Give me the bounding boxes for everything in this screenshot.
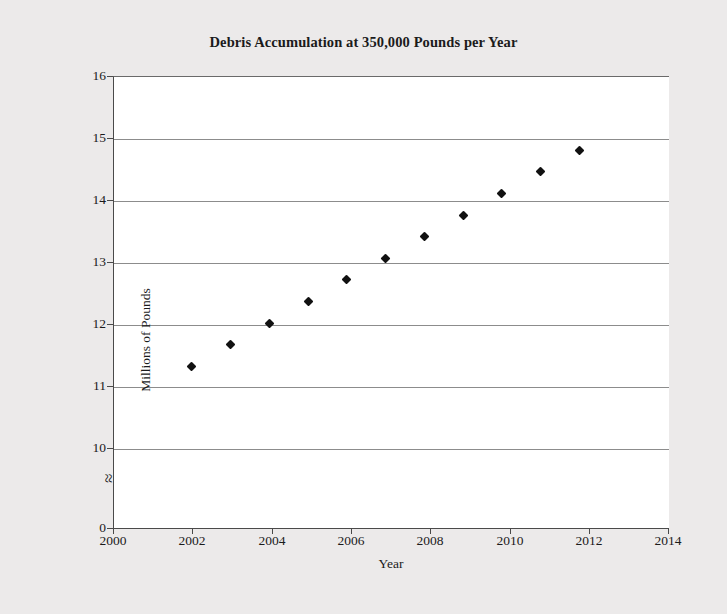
data-point bbox=[341, 274, 351, 284]
gridline-10 bbox=[114, 449, 669, 450]
x-tick-label-2010: 2010 bbox=[480, 533, 540, 549]
data-point bbox=[380, 253, 390, 263]
y-tick-mark-12 bbox=[107, 324, 113, 325]
y-tick-label-12: 12 bbox=[66, 317, 106, 331]
y-tick-mark-10 bbox=[107, 448, 113, 449]
y-axis-ticks bbox=[113, 0, 114, 614]
y-tick-label-11: 11 bbox=[66, 379, 106, 393]
y-tick-label-13: 13 bbox=[66, 255, 106, 269]
y-tick-label-10: 10 bbox=[66, 441, 106, 455]
x-tick-label-2000: 2000 bbox=[83, 533, 143, 549]
gridline-12 bbox=[114, 325, 669, 326]
data-point bbox=[535, 166, 545, 176]
data-point bbox=[186, 361, 196, 371]
gridline-11 bbox=[114, 387, 669, 388]
x-tick-label-2002: 2002 bbox=[162, 533, 222, 549]
x-tick-label-2004: 2004 bbox=[242, 533, 302, 549]
y-tick-mark-16 bbox=[107, 76, 113, 77]
y-tick-label-14: 14 bbox=[66, 193, 106, 207]
y-tick-label-16: 16 bbox=[66, 69, 106, 83]
gridline-14 bbox=[114, 201, 669, 202]
y-tick-mark-13 bbox=[107, 262, 113, 263]
data-point bbox=[419, 231, 429, 241]
x-tick-label-2006: 2006 bbox=[321, 533, 381, 549]
y-tick-label-15: 15 bbox=[66, 131, 106, 145]
x-axis-title: Year bbox=[113, 556, 669, 572]
x-axis-line bbox=[113, 528, 669, 529]
x-tick-label-2014: 2014 bbox=[638, 533, 698, 549]
y-tick-mark-14 bbox=[107, 200, 113, 201]
data-point bbox=[303, 296, 313, 306]
chart-title: Debris Accumulation at 350,000 Pounds pe… bbox=[0, 34, 727, 51]
data-point bbox=[574, 145, 584, 155]
y-tick-mark-15 bbox=[107, 138, 113, 139]
data-point bbox=[496, 188, 506, 198]
y-axis-labels: 16 15 14 13 12 11 10 0 bbox=[60, 0, 106, 614]
data-point bbox=[225, 339, 235, 349]
x-tick-label-2008: 2008 bbox=[400, 533, 460, 549]
data-point bbox=[458, 210, 468, 220]
gridline-15 bbox=[114, 139, 669, 140]
plot-area: Millions of Pounds bbox=[113, 76, 669, 529]
data-point bbox=[264, 318, 274, 328]
chart-page: Debris Accumulation at 350,000 Pounds pe… bbox=[0, 0, 727, 614]
axis-break-symbol: ≈ bbox=[100, 474, 117, 483]
x-tick-label-2012: 2012 bbox=[559, 533, 619, 549]
y-tick-mark-11 bbox=[107, 386, 113, 387]
y-axis-title: Millions of Pounds bbox=[138, 230, 154, 450]
gridline-13 bbox=[114, 263, 669, 264]
